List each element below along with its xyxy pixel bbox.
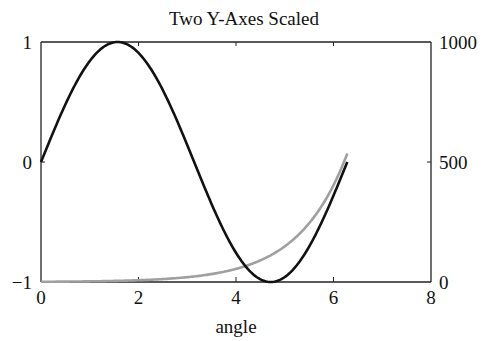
sin-series-line [41, 42, 347, 282]
x-tick-label: 6 [329, 287, 339, 308]
y-left-tick-label: −1 [12, 272, 32, 293]
y-right-tick-label: 500 [439, 152, 468, 173]
plot-area [41, 42, 431, 282]
y-right-tick-label: 0 [439, 272, 449, 293]
x-axis-label: angle [215, 316, 256, 337]
x-tick-label: 2 [134, 287, 144, 308]
chart-title: Two Y-Axes Scaled [169, 8, 319, 29]
y-right-tick-label: 1000 [439, 32, 477, 53]
x-tick-label: 8 [426, 287, 436, 308]
chart-svg: Two Y-Axes Scaled 1 0 −1 1000 500 0 0 2 … [0, 0, 490, 341]
x-tick-label: 4 [231, 287, 241, 308]
ticks [41, 42, 431, 282]
x-tick-label: 0 [36, 287, 46, 308]
y-left-tick-label: 1 [23, 32, 33, 53]
exp-series-line [41, 153, 347, 281]
y-left-tick-label: 0 [23, 152, 33, 173]
